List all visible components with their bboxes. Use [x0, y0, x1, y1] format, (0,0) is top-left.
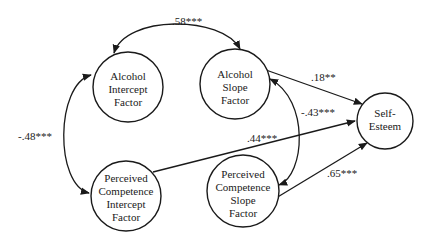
svg-text:Perceived: Perceived	[104, 172, 148, 184]
svg-text:Esteem: Esteem	[369, 120, 402, 132]
svg-text:Factor: Factor	[229, 207, 257, 219]
svg-text:Factor: Factor	[112, 211, 140, 223]
node-alcohol-intercept: Alcohol Intercept Factor	[93, 52, 163, 122]
node-pc-intercept: Perceived Competence Intercept Factor	[91, 161, 161, 231]
edge-label-pcs-se: .65***	[327, 167, 357, 179]
edge-alcohol-intercept-pc-intercept	[64, 75, 91, 193]
svg-text:Slope: Slope	[230, 194, 255, 206]
edge-label-ai-pci: -.48***	[18, 130, 52, 142]
svg-text:Intercept: Intercept	[106, 198, 145, 210]
path-model-diagram: .58*** -.48*** -.43*** .18** .44*** .65*…	[0, 0, 438, 240]
svg-text:Perceived: Perceived	[221, 168, 265, 180]
edge-label-ai-as: .58***	[172, 15, 202, 27]
svg-text:Factor: Factor	[221, 94, 249, 106]
node-pc-slope: Perceived Competence Slope Factor	[207, 155, 279, 227]
edge-alcohol-intercept-alcohol-slope	[114, 24, 240, 53]
svg-text:Slope: Slope	[222, 81, 247, 93]
edge-label-as-pcs: -.43***	[301, 106, 335, 118]
svg-text:Alcohol: Alcohol	[110, 70, 145, 82]
node-alcohol-slope: Alcohol Slope Factor	[200, 49, 270, 119]
svg-text:Competence: Competence	[216, 181, 271, 193]
edge-label-pci-se: .44***	[247, 132, 277, 144]
edge-label-as-se: .18**	[311, 71, 336, 83]
svg-text:Alcohol: Alcohol	[217, 68, 252, 80]
svg-text:Competence: Competence	[99, 185, 154, 197]
node-self-esteem: Self- Esteem	[357, 93, 413, 149]
svg-text:Self-: Self-	[374, 107, 396, 119]
svg-text:Factor: Factor	[114, 96, 142, 108]
svg-text:Intercept: Intercept	[108, 83, 147, 95]
